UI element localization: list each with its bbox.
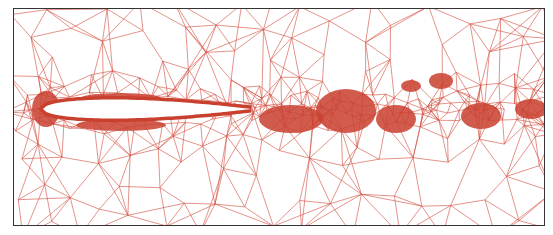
dense-mesh-region (259, 105, 323, 133)
dense-mesh-region (376, 105, 416, 133)
triangular-mesh (14, 9, 545, 226)
dense-mesh-region (515, 99, 545, 119)
dense-mesh-region (461, 103, 501, 129)
mesh-figure-frame (13, 8, 545, 226)
dense-mesh-region (316, 89, 376, 133)
dense-mesh-region (429, 73, 453, 89)
dense-mesh-region (401, 80, 421, 92)
